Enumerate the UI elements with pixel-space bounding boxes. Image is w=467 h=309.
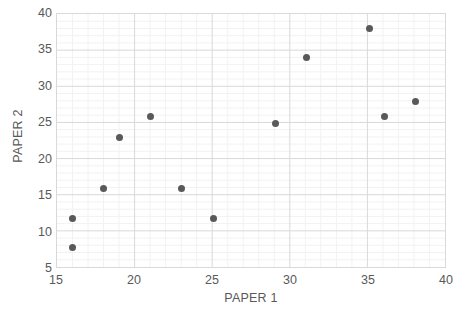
- x-axis-tick-labels: 152025303540: [56, 273, 446, 289]
- y-tick-label: 15: [24, 189, 52, 201]
- y-tick-label: 25: [24, 116, 52, 128]
- y-tick-label: 35: [24, 43, 52, 55]
- x-tick-label: 40: [426, 273, 466, 287]
- data-point: [210, 215, 217, 222]
- chart-title: [0, 0, 467, 3]
- data-point: [69, 244, 76, 251]
- data-point: [147, 113, 154, 120]
- x-tick-label: 30: [270, 273, 310, 287]
- data-point: [100, 185, 107, 192]
- y-tick-label: 30: [24, 80, 52, 92]
- data-point: [178, 185, 185, 192]
- plot-area: [56, 13, 446, 268]
- data-point: [69, 215, 76, 222]
- y-tick-label: 20: [24, 153, 52, 165]
- data-point: [366, 25, 373, 32]
- x-tick-label: 25: [192, 273, 232, 287]
- y-tick-label: 10: [24, 226, 52, 238]
- data-point: [272, 120, 279, 127]
- data-point: [412, 98, 419, 105]
- data-points-layer: [57, 14, 445, 267]
- x-tick-label: 35: [348, 273, 388, 287]
- data-point: [116, 134, 123, 141]
- data-point: [303, 54, 310, 61]
- scatter-chart: 510152025303540 152025303540 PAPER 1 PAP…: [0, 0, 467, 309]
- data-point: [381, 113, 388, 120]
- x-tick-label: 15: [36, 273, 76, 287]
- x-tick-label: 20: [114, 273, 154, 287]
- x-axis-title: PAPER 1: [56, 291, 446, 305]
- y-tick-label: 40: [24, 7, 52, 19]
- y-axis-title: PAPER 2: [11, 76, 25, 196]
